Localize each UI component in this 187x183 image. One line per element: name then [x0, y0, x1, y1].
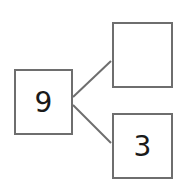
whole-value: 9 — [35, 86, 53, 119]
part-bottom-box: 3 — [112, 113, 173, 179]
connector-top — [73, 61, 111, 97]
part-bottom-value: 3 — [134, 130, 152, 163]
connector-bottom — [73, 105, 111, 143]
part-top-box[interactable] — [112, 22, 173, 88]
whole-box: 9 — [14, 69, 73, 135]
